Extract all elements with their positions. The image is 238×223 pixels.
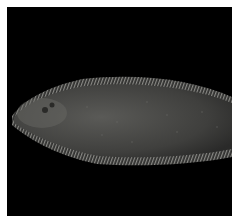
flatfish-illustration [7, 7, 232, 216]
specimen-photo [7, 7, 232, 216]
eye [42, 107, 48, 113]
